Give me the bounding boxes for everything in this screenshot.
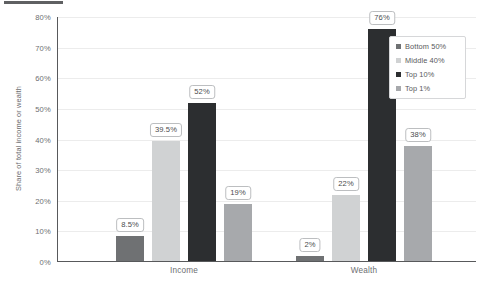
y-axis-tick-label: 10% [5,227,51,236]
y-axis-tick-label: 30% [5,166,51,175]
legend-swatch-icon [396,58,401,63]
bar-data-label: 2% [299,238,320,252]
legend: Bottom 50%Middle 40%Top 10%Top 1% [389,36,466,99]
legend-swatch-icon [396,72,401,77]
bar-data-label: 39.5% [150,123,182,137]
legend-item-label: Bottom 50% [405,42,446,51]
bar [188,103,216,262]
legend-item[interactable]: Bottom 50% [396,42,460,51]
bar-data-label: 22% [333,177,359,191]
legend-item[interactable]: Top 1% [396,84,460,93]
bar-data-label: 76% [369,11,395,25]
bar [332,195,360,262]
legend-item[interactable]: Middle 40% [396,56,460,65]
y-axis-line [57,17,58,262]
bar [404,146,432,262]
legend-item-label: Top 10% [405,70,434,79]
y-axis-tick-label: 50% [5,104,51,113]
y-axis-tick-label: 40% [5,135,51,144]
x-axis-category-labels: IncomeWealth [57,266,476,280]
y-axis-tick-labels: 0%10%20%30%40%50%60%70%80% [0,17,51,262]
bar-data-label: 19% [225,186,251,200]
legend-item-label: Top 1% [405,84,430,93]
top-edge-artifact [4,1,63,4]
bar [152,141,180,262]
bar [224,204,252,262]
bar-chart: Share of total income or wealth 0%10%20%… [0,0,491,289]
y-axis-tick-label: 60% [5,74,51,83]
bar-data-label: 52% [189,85,215,99]
legend-item[interactable]: Top 10% [396,70,460,79]
y-axis-tick-label: 80% [5,13,51,22]
x-axis-category-label: Income [170,266,198,275]
legend-swatch-icon [396,86,401,91]
y-axis-tick-label: 0% [5,258,51,267]
x-axis-line [57,261,476,262]
bar [116,236,144,262]
x-axis-category-label: Wealth [351,266,378,275]
bar-data-label: 8.5% [116,218,144,232]
y-axis-tick-label: 70% [5,43,51,52]
bar-data-label: 38% [405,128,431,142]
gridline [58,17,476,18]
legend-swatch-icon [396,44,401,49]
gridline [58,109,476,110]
y-axis-tick-label: 20% [5,196,51,205]
legend-item-label: Middle 40% [405,56,445,65]
